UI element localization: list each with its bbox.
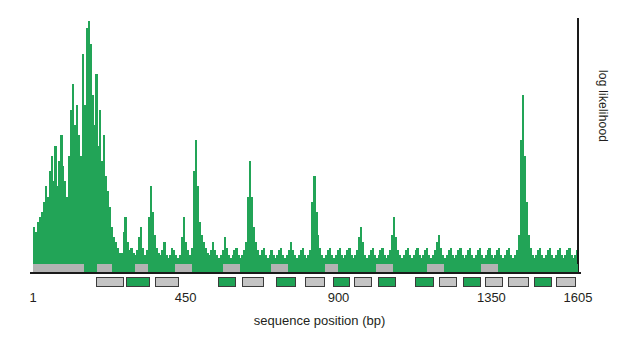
annotation-segment: [240, 264, 271, 272]
annotation-segment: [498, 264, 542, 272]
x-tick-label: 450: [175, 290, 197, 305]
annotation-box[interactable]: [508, 277, 528, 287]
annotation-segment: [175, 264, 192, 272]
annotation-segment: [135, 264, 149, 272]
annotation-box[interactable]: [354, 277, 373, 287]
annotation-box[interactable]: [276, 277, 296, 287]
annotation-segment: [393, 264, 427, 272]
annotation-box[interactable]: [534, 277, 553, 287]
x-tick-label: 900: [328, 290, 350, 305]
y-axis-line: [577, 18, 579, 274]
annotation-segment: [376, 264, 393, 272]
annotation-segment: [223, 264, 240, 272]
annotation-segment: [271, 264, 288, 272]
annotation-box[interactable]: [378, 277, 397, 287]
x-tick-label: 1: [29, 290, 36, 305]
chart-figure: 145090013501605 sequence position (bp) l…: [0, 0, 639, 342]
annotation-segment: [113, 264, 135, 272]
annotation-box[interactable]: [556, 277, 576, 287]
annotation-box[interactable]: [126, 277, 150, 287]
x-tick-label: 1350: [477, 290, 506, 305]
annotation-box[interactable]: [333, 277, 350, 287]
annotation-segment: [288, 264, 325, 272]
annotation-box[interactable]: [305, 277, 325, 287]
annotation-segment: [33, 264, 84, 272]
plot-area: [33, 18, 578, 273]
x-axis-title: sequence position (bp): [0, 313, 639, 328]
annotation-box[interactable]: [155, 277, 179, 287]
annotation-segment: [542, 264, 578, 272]
annotation-segment: [325, 264, 339, 272]
annotation-box[interactable]: [96, 277, 125, 287]
x-axis-line: [30, 272, 581, 274]
annotation-segment: [427, 264, 444, 272]
annotation-box[interactable]: [485, 277, 504, 287]
annotation-box-track: [33, 277, 578, 287]
annotation-segment: [97, 264, 112, 272]
annotation-box[interactable]: [463, 277, 482, 287]
annotation-box[interactable]: [439, 277, 458, 287]
annotation-segment: [481, 264, 498, 272]
annotation-segment: [339, 264, 376, 272]
annotation-box[interactable]: [242, 277, 264, 287]
annotation-segment: [444, 264, 481, 272]
y-axis-title: log likelihood: [596, 70, 610, 142]
annotation-segment: [84, 264, 98, 272]
annotation-segment: [148, 264, 175, 272]
x-tick-label: 1605: [564, 290, 593, 305]
annotation-box[interactable]: [218, 277, 237, 287]
annotation-segment: [192, 264, 223, 272]
annotation-box[interactable]: [415, 277, 434, 287]
